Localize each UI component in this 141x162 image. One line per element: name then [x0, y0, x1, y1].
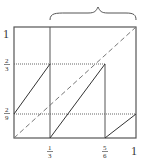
- x-label-one-third-den: 3: [48, 152, 52, 160]
- x-label-five-sixths-den: 6: [103, 152, 107, 160]
- y-label-one: 1: [3, 27, 9, 41]
- branch-1: [14, 64, 50, 114]
- y-label-two-thirds-num: 2: [5, 57, 9, 65]
- y-label-two-thirds-den: 3: [5, 65, 9, 73]
- y-label-two-ninths-num: 2: [5, 106, 9, 114]
- x-label-one: 1: [131, 144, 137, 158]
- x-label-five-sixths-num: 5: [103, 144, 107, 152]
- dashed-diagonal: [14, 27, 136, 138]
- branch-2: [50, 64, 105, 138]
- y-label-two-ninths-den: 9: [5, 114, 9, 122]
- diagram-canvas: 1 2 3 2 9 1 3 5 6 1: [0, 0, 141, 162]
- branch-3: [105, 114, 136, 138]
- x-label-one-third-num: 1: [48, 144, 52, 152]
- curly-brace: [50, 7, 136, 20]
